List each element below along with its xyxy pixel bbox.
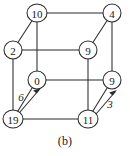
node-front-bottom-left[interactable]: 19 xyxy=(3,110,23,128)
node-front-bottom-left-label: 19 xyxy=(8,114,20,126)
node-front-top-right-label: 9 xyxy=(109,75,115,87)
figure-caption: (b) xyxy=(0,134,130,149)
node-front-top-left-label: 0 xyxy=(34,75,40,87)
arrow-right-label: 3 xyxy=(106,98,113,110)
node-back-top-left[interactable]: 10 xyxy=(27,4,47,22)
node-front-top-right[interactable]: 9 xyxy=(103,71,121,89)
node-back-top-left-label: 10 xyxy=(32,8,44,20)
node-back-top-right[interactable]: 4 xyxy=(103,4,121,22)
node-front-bottom-right-label: 11 xyxy=(83,114,94,126)
arrow-group xyxy=(20,88,117,114)
node-back-bottom-right-label: 9 xyxy=(85,45,91,57)
edge-group-back-face xyxy=(13,13,112,50)
arrow-right-head xyxy=(109,90,117,96)
figure-container: 6 3 10 4 2 9 0 9 19 xyxy=(0,0,130,156)
cube-graph-svg: 6 3 10 4 2 9 0 9 19 xyxy=(0,0,130,156)
arrow-left-label: 6 xyxy=(18,91,24,103)
node-back-bottom-left[interactable]: 2 xyxy=(4,41,22,59)
node-back-bottom-right[interactable]: 9 xyxy=(79,41,97,59)
node-front-top-left[interactable]: 0 xyxy=(28,71,46,89)
node-back-bottom-left-label: 2 xyxy=(10,45,16,57)
node-front-bottom-right[interactable]: 11 xyxy=(78,110,98,128)
node-back-top-right-label: 4 xyxy=(109,8,115,20)
